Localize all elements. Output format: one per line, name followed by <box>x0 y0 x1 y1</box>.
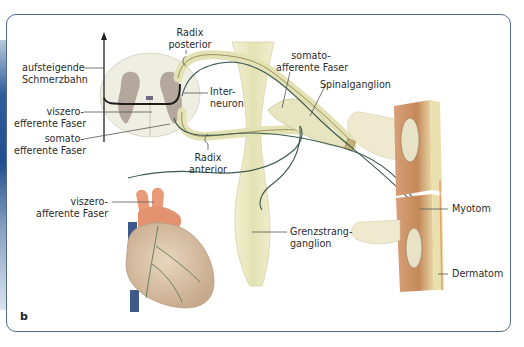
label-line: Grenzstrang- <box>290 226 352 238</box>
label-radix-anterior: Radix anterior <box>188 152 228 176</box>
heart-illustration <box>126 188 214 312</box>
label-myotom: Myotom <box>452 203 491 215</box>
label-line: efferente Faser <box>14 118 84 130</box>
label-line: Inter- <box>210 86 244 98</box>
label-line: anterior <box>188 164 228 176</box>
label-viszero-afferente-faser: viszero- afferente Faser <box>36 196 108 220</box>
label-line: ganglion <box>290 238 352 250</box>
label-line: afferente Faser <box>36 208 108 220</box>
label-line: Spinalganglion <box>320 79 391 91</box>
label-line: afferente Faser <box>276 62 346 74</box>
label-line: somato- <box>276 50 346 62</box>
label-line: Radix <box>168 27 212 39</box>
label-line: somato- <box>14 133 84 145</box>
label-line: Radix <box>188 152 228 164</box>
neuro-anatomy-illustration <box>0 0 524 347</box>
label-line: posterior <box>168 39 212 51</box>
label-aufsteigende-schmerzbahn: aufsteigende Schmerzbahn <box>22 62 84 86</box>
label-somato-efferente-faser: somato- efferente Faser <box>14 133 84 157</box>
label-line: viszero- <box>36 196 108 208</box>
panel-letter: b <box>20 310 28 323</box>
label-somato-afferente-faser: somato- afferente Faser <box>276 50 346 74</box>
label-line: Schmerzbahn <box>22 74 84 86</box>
label-line: viszero- <box>14 106 84 118</box>
body-wall-section <box>348 100 444 292</box>
label-viszero-efferente-faser: viszero- efferente Faser <box>14 106 84 130</box>
label-line: aufsteigende <box>22 62 84 74</box>
label-radix-posterior: Radix posterior <box>168 27 212 51</box>
label-line: efferente Faser <box>14 145 84 157</box>
label-line: neuron <box>210 98 244 110</box>
label-dermatom: Dermatom <box>452 268 503 280</box>
label-interneuron: Inter- neuron <box>210 86 244 110</box>
label-spinalganglion: Spinalganglion <box>320 79 391 91</box>
sympathetic-trunk <box>232 42 274 286</box>
label-line: Myotom <box>452 203 491 215</box>
label-line: Dermatom <box>452 268 503 280</box>
label-grenzstrangganglion: Grenzstrang- ganglion <box>290 226 352 250</box>
